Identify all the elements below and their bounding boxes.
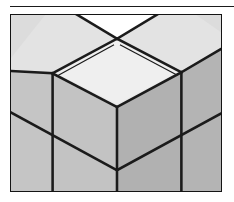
figure-frame <box>10 14 222 192</box>
horizontal-rule <box>10 6 234 7</box>
isometric-cubes-illustration <box>11 15 221 191</box>
figure-page <box>0 0 234 202</box>
